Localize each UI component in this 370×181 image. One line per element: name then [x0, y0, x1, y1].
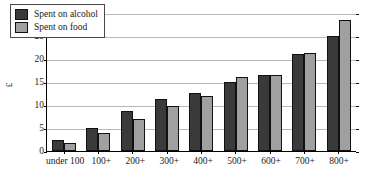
- legend-swatch-icon: [15, 22, 28, 33]
- x-tick-mark: [201, 151, 202, 154]
- bar[interactable]: [98, 133, 110, 151]
- x-tick-label: 100+: [84, 155, 118, 171]
- bar-group: [116, 14, 150, 151]
- x-tick-mark: [64, 151, 65, 154]
- x-tick-label: 400+: [186, 155, 220, 171]
- x-tick-mark: [132, 151, 133, 154]
- bar[interactable]: [236, 77, 248, 151]
- bar[interactable]: [167, 106, 179, 151]
- y-tick-label: 0: [18, 147, 44, 157]
- y-tick-mark: [356, 83, 359, 84]
- bar[interactable]: [224, 82, 236, 151]
- x-tick-mark: [167, 151, 168, 154]
- legend-item[interactable]: Spent on alcohol: [15, 8, 98, 21]
- x-tick-mark: [270, 151, 271, 154]
- y-tick-label: 5: [18, 124, 44, 134]
- x-tick-mark: [304, 151, 305, 154]
- bar-group: [219, 14, 253, 151]
- y-tick-mark: [356, 106, 359, 107]
- y-tick-mark: [356, 129, 359, 130]
- y-axis-label: £: [2, 78, 16, 92]
- y-tick-label: 20: [18, 55, 44, 65]
- legend-item[interactable]: Spent on food: [15, 21, 98, 34]
- y-tick-mark: [356, 152, 359, 153]
- legend-label: Spent on food: [34, 22, 87, 33]
- bar[interactable]: [327, 36, 339, 151]
- x-tick-label: 200+: [118, 155, 152, 171]
- x-tick-label: 800+: [322, 155, 356, 171]
- bar[interactable]: [201, 96, 213, 151]
- y-tick-label: 10: [18, 101, 44, 111]
- legend-label: Spent on alcohol: [34, 9, 98, 20]
- x-tick-label: 300+: [152, 155, 186, 171]
- bar[interactable]: [133, 119, 145, 151]
- x-tick-label: 600+: [254, 155, 288, 171]
- bar-group: [322, 14, 356, 151]
- bar[interactable]: [189, 93, 201, 151]
- x-tick-label: 500+: [220, 155, 254, 171]
- y-tick-mark: [356, 14, 359, 15]
- bar[interactable]: [155, 99, 167, 151]
- bar[interactable]: [304, 53, 316, 151]
- legend-swatch-icon: [15, 9, 28, 20]
- x-axis-tick-labels: under 100100+200+300+400+500+600+700+800…: [46, 155, 356, 171]
- x-tick-mark: [338, 151, 339, 154]
- bar[interactable]: [52, 140, 64, 151]
- bar-group: [253, 14, 287, 151]
- bar-group: [184, 14, 218, 151]
- x-tick-label: under 100: [46, 155, 84, 171]
- x-tick-label: 700+: [288, 155, 322, 171]
- y-tick-mark: [356, 60, 359, 61]
- bar-group: [150, 14, 184, 151]
- bar[interactable]: [292, 54, 304, 151]
- bar[interactable]: [270, 75, 282, 151]
- bar-chart: £ 051015202530 under 100100+200+300+400+…: [0, 0, 370, 181]
- x-tick-mark: [235, 151, 236, 154]
- x-tick-mark: [98, 151, 99, 154]
- legend: Spent on alcoholSpent on food: [10, 4, 105, 38]
- bar[interactable]: [258, 75, 270, 151]
- bar[interactable]: [339, 20, 351, 151]
- y-tick-mark: [356, 37, 359, 38]
- y-tick-label: 15: [18, 78, 44, 88]
- y-tick-mark: [44, 152, 47, 153]
- bar[interactable]: [86, 128, 98, 151]
- bar[interactable]: [64, 143, 76, 151]
- bar[interactable]: [121, 111, 133, 151]
- bar-group: [287, 14, 321, 151]
